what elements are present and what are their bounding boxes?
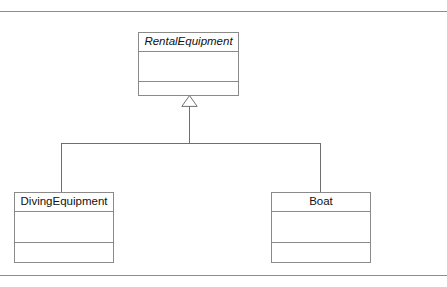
class-name-compartment: RentalEquipment <box>139 33 238 52</box>
generalization-branch-boat <box>320 143 321 192</box>
class-name-boat: Boat <box>309 196 333 208</box>
figure-bottom-rule <box>0 275 447 276</box>
class-box-diving-equipment[interactable]: DivingEquipment <box>14 192 114 263</box>
class-name-compartment: DivingEquipment <box>15 193 113 212</box>
generalization-horizontal-bus <box>61 143 321 144</box>
class-name-rental-equipment: RentalEquipment <box>144 36 232 48</box>
class-attributes-compartment <box>15 212 113 243</box>
class-name-diving-equipment: DivingEquipment <box>21 196 108 208</box>
uml-class-diagram: RentalEquipment DivingEquipment Boat <box>0 0 447 287</box>
figure-top-rule <box>0 11 447 12</box>
class-box-rental-equipment[interactable]: RentalEquipment <box>138 32 239 96</box>
class-attributes-compartment <box>139 52 238 82</box>
class-name-compartment: Boat <box>272 193 370 212</box>
class-attributes-compartment <box>272 212 370 243</box>
class-operations-compartment <box>139 82 238 95</box>
generalization-stem <box>189 106 190 144</box>
generalization-branch-diving-equipment <box>61 143 62 192</box>
class-operations-compartment <box>272 243 370 262</box>
class-operations-compartment <box>15 243 113 262</box>
class-box-boat[interactable]: Boat <box>271 192 371 263</box>
